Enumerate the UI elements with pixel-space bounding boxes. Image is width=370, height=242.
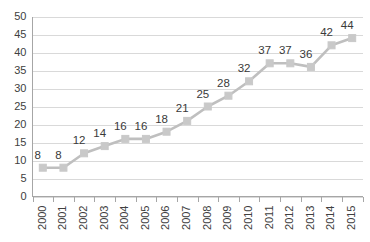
data-point-marker xyxy=(122,135,129,142)
x-axis-tick-label: 2000 xyxy=(36,206,48,230)
data-point-marker xyxy=(328,42,335,49)
data-point-label: 14 xyxy=(93,127,106,139)
y-axis-tick-label: 15 xyxy=(14,136,26,148)
y-axis-tick-label: 10 xyxy=(14,154,26,166)
data-point-marker xyxy=(266,60,273,67)
x-axis-tick-label: 2011 xyxy=(263,206,275,230)
data-point-label: 12 xyxy=(73,134,86,146)
y-axis-tick-label: 45 xyxy=(14,28,26,40)
x-axis-tick-label: 2004 xyxy=(118,206,130,230)
data-point-marker xyxy=(101,143,108,150)
data-point-label: 16 xyxy=(114,120,127,132)
y-axis-tick-label: 50 xyxy=(14,10,26,22)
data-point-marker xyxy=(349,35,356,42)
gridlines-group xyxy=(33,18,363,198)
x-axis-tick-label: 2001 xyxy=(56,206,68,230)
x-axis-tick-label: 2003 xyxy=(98,206,110,230)
x-axis-tick-label: 2002 xyxy=(77,206,89,230)
x-axis-tick-label: 2005 xyxy=(139,206,151,230)
data-point-label: 8 xyxy=(55,149,61,161)
data-point-marker xyxy=(163,128,170,135)
data-point-label: 21 xyxy=(176,102,189,114)
x-axis-tick-labels-group: 2000200120022003200420052006200720082009… xyxy=(36,206,357,230)
x-axis-tick-label: 2007 xyxy=(180,206,192,230)
y-axis-tick-label: 40 xyxy=(14,46,26,58)
data-point-marker xyxy=(39,164,46,171)
data-point-marker xyxy=(204,103,211,110)
x-axis-tick-label: 2008 xyxy=(201,206,213,230)
data-point-label: 36 xyxy=(300,48,313,60)
data-point-label: 16 xyxy=(135,120,148,132)
x-axis-tick-label: 2012 xyxy=(283,206,295,230)
y-axis-tick-label: 5 xyxy=(20,172,26,184)
x-axis-tick-label: 2014 xyxy=(324,206,336,230)
y-axis-tick-label: 30 xyxy=(14,82,26,94)
data-point-marker xyxy=(307,63,314,70)
axis-lines-group xyxy=(33,17,363,197)
y-axis-tick-label: 20 xyxy=(14,118,26,130)
data-point-label: 28 xyxy=(217,77,230,89)
data-point-marker xyxy=(246,78,253,85)
data-point-marker xyxy=(287,60,294,67)
data-point-label: 37 xyxy=(258,44,271,56)
data-point-marker xyxy=(81,150,88,157)
data-point-label: 44 xyxy=(341,19,354,31)
data-point-marker xyxy=(225,92,232,99)
x-axis-tick-label: 2006 xyxy=(159,206,171,230)
y-axis-tick-label: 25 xyxy=(14,100,26,112)
x-axis-tick-label: 2009 xyxy=(221,206,233,230)
x-axis-tick-label: 2013 xyxy=(304,206,316,230)
data-point-label: 37 xyxy=(279,44,292,56)
y-axis-tick-label: 0 xyxy=(20,190,26,202)
data-point-marker xyxy=(60,164,67,171)
y-axis-tick-label: 35 xyxy=(14,64,26,76)
x-axis-tick-label: 2015 xyxy=(345,206,357,230)
data-point-label: 32 xyxy=(238,62,251,74)
data-point-label: 18 xyxy=(155,113,168,125)
line-chart: 05101520253035404550 2000200120022003200… xyxy=(0,0,370,242)
data-point-marker xyxy=(184,117,191,124)
x-axis-tick-label: 2010 xyxy=(242,206,254,230)
data-point-label: 25 xyxy=(196,88,209,100)
y-axis-tick-labels-group: 05101520253035404550 xyxy=(14,10,26,202)
chart-canvas: 05101520253035404550 2000200120022003200… xyxy=(0,0,370,242)
data-point-label: 8 xyxy=(35,149,41,161)
data-point-label: 42 xyxy=(320,26,333,38)
data-point-marker xyxy=(142,135,149,142)
